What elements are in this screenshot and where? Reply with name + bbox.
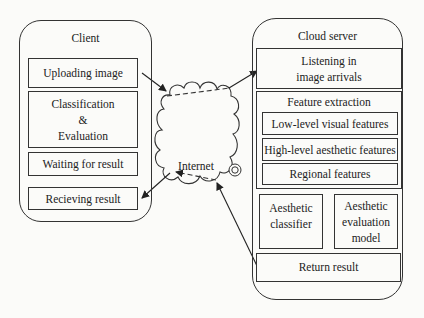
step-waiting-for-result: Waiting for result: [28, 152, 138, 176]
step-label: Recieving result: [45, 191, 120, 207]
feature-label: Regional features: [290, 166, 371, 182]
return-result-label: Return result: [299, 259, 359, 275]
feature-high-level-aesthetic: High-level aesthetic features: [262, 138, 398, 161]
step-recieving-result: Recieving result: [28, 187, 138, 210]
feature-label: High-level aesthetic features: [264, 142, 396, 158]
aesthetic-classifier: Aesthetic classifier: [259, 194, 323, 249]
feature-label: Low-level visual features: [272, 116, 389, 132]
feature-regional: Regional features: [262, 163, 398, 185]
step-uploading-image: Uploading image: [28, 58, 138, 88]
server-title: Cloud server: [252, 30, 403, 42]
step-classification-evaluation: Classification & Evaluation: [28, 91, 138, 148]
listening-label: Listening in image arrivals: [296, 53, 361, 85]
listening-image-arrivals: Listening in image arrivals: [256, 48, 402, 89]
evaluation-model-label: Aesthetic evaluation model: [342, 198, 390, 246]
step-label: Waiting for result: [43, 156, 124, 172]
step-label: Uploading image: [43, 65, 123, 81]
feature-extraction-title: Feature extraction: [257, 96, 401, 108]
client-title: Client: [19, 32, 152, 44]
return-result: Return result: [256, 253, 401, 282]
antenna-outer-icon: [229, 164, 241, 176]
feature-low-level-visual: Low-level visual features: [262, 112, 398, 135]
aesthetic-evaluation-model: Aesthetic evaluation model: [334, 194, 398, 249]
internet-label: Internet: [166, 160, 226, 172]
step-label: Classification & Evaluation: [51, 96, 114, 144]
classifier-label: Aesthetic classifier: [269, 200, 312, 232]
